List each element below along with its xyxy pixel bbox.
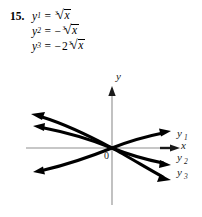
arrowhead-y1-right-icon — [159, 129, 171, 137]
origin-label: 0 — [104, 150, 109, 161]
equation-1: y1 = 3 √ x — [32, 9, 71, 22]
arrowhead-y2-left-icon — [33, 123, 45, 131]
equation-3-radical: 3 √ x — [69, 39, 85, 52]
x-axis-label: x — [180, 139, 186, 151]
equation-1-radicand: x — [64, 9, 71, 21]
arrowhead-y2-right-icon — [159, 160, 171, 168]
curve-label-y3: y — [176, 166, 182, 178]
y-axis-arrowhead-icon — [108, 86, 115, 96]
equation-2-sign: − — [55, 25, 62, 37]
curve-label-y2: y — [176, 151, 182, 163]
curve-label-y1: y — [176, 127, 182, 139]
equation-row-3: y3 = − 2 3 √ x — [10, 38, 200, 53]
arrowhead-y1-left-icon — [33, 167, 45, 175]
equation-3-subscript: 3 — [37, 41, 41, 50]
y-axis-label: y — [115, 70, 121, 82]
equation-3-sign: − — [55, 40, 62, 52]
curve-label-y2-subscript: 2 — [184, 157, 188, 166]
equation-2-radical: 3 √ x — [63, 24, 79, 37]
graph-figure: 0 y 1 x y 2 y 3 y — [0, 58, 202, 217]
equation-2-radical-index: 3 — [63, 25, 66, 31]
equation-3: y3 = − 2 3 √ x — [32, 39, 85, 52]
equation-row-1: 15. y1 = 3 √ x — [10, 8, 200, 23]
equation-3-radicand: x — [78, 39, 85, 51]
exercise-figure-page: 15. y1 = 3 √ x y2 = − 3 √ x — [0, 0, 202, 217]
equation-row-2: y2 = − 3 √ x — [10, 23, 200, 38]
problem-number: 15. — [10, 10, 32, 22]
curve-labels-group: y 1 x y 2 y 3 — [176, 127, 188, 181]
equation-2-radicand: x — [71, 24, 78, 36]
equation-1-radical-index: 3 — [55, 10, 58, 16]
equation-3-equals: = — [45, 40, 52, 52]
equation-1-equals: = — [45, 10, 52, 22]
curve-label-y3-subscript: 3 — [183, 172, 188, 181]
graph-svg: 0 y 1 x y 2 y 3 y — [0, 58, 202, 217]
curve-arrowheads-group — [31, 112, 171, 182]
equation-2-subscript: 2 — [37, 26, 41, 35]
equation-2: y2 = − 3 √ x — [32, 24, 79, 37]
curves-group — [42, 117, 163, 177]
equation-3-radical-index: 3 — [69, 40, 72, 46]
curve-y3 — [42, 117, 163, 177]
equation-1-subscript: 1 — [37, 11, 41, 20]
equation-2-equals: = — [45, 25, 52, 37]
problem-statement: 15. y1 = 3 √ x y2 = − 3 √ x — [10, 8, 200, 53]
equation-3-coefficient: 2 — [62, 40, 68, 52]
equation-1-radical: 3 √ x — [55, 9, 71, 22]
